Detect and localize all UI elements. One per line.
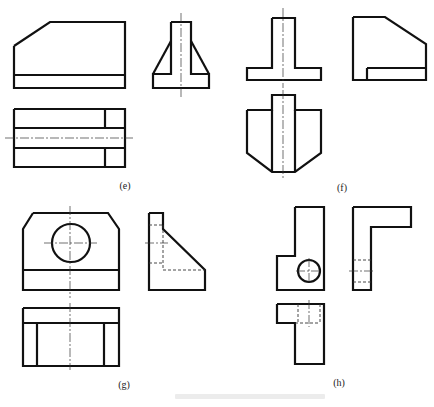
figure-caption xyxy=(175,394,325,399)
outline xyxy=(277,304,324,364)
panel-g xyxy=(23,206,205,370)
panel-h xyxy=(277,207,411,364)
panel-h-top-view xyxy=(277,300,324,364)
panel-e-top-view xyxy=(5,109,133,167)
panel-e-side-view xyxy=(153,13,209,98)
panel-f-front-view xyxy=(247,8,321,88)
panel-label-g: (g) xyxy=(118,379,130,390)
panel-f-top-view xyxy=(247,90,321,178)
panel-g-top-view xyxy=(23,303,119,370)
outline xyxy=(14,22,125,88)
panel-h-front-view xyxy=(277,207,324,290)
panel-e xyxy=(5,13,209,167)
outline xyxy=(149,213,205,290)
panel-g-front-view xyxy=(23,206,119,298)
outline xyxy=(353,17,426,80)
outline xyxy=(353,207,411,290)
panel-f-side-view xyxy=(353,17,426,80)
panel-label-e: (e) xyxy=(119,180,130,191)
panel-label-h: (h) xyxy=(333,377,345,388)
panel-h-side-view xyxy=(349,207,411,290)
panel-label-f: (f) xyxy=(337,182,347,193)
panel-f xyxy=(247,8,426,178)
outline xyxy=(247,18,321,80)
outline xyxy=(247,95,321,172)
technical-drawing-canvas xyxy=(0,0,434,407)
panel-g-side-view xyxy=(145,213,205,290)
visible-edge xyxy=(191,41,209,74)
panel-e-front-view xyxy=(14,22,125,88)
visible-edge xyxy=(153,41,171,74)
